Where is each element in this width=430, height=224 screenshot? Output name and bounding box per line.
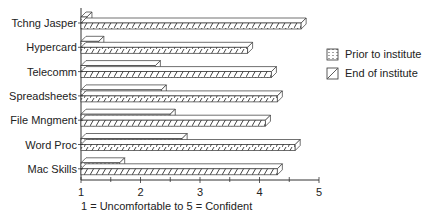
category-label: Tchng Jasper — [12, 17, 78, 29]
x-axis-label: 1 = Uncomfortable to 5 = Confident — [81, 200, 252, 212]
category-label: Spreadsheets — [9, 90, 77, 102]
legend: Prior to institute End of institute — [327, 48, 421, 79]
bar-chart: 12345 Tchng JasperHypercardTelecommSprea… — [0, 0, 430, 224]
bar-group — [81, 36, 253, 53]
legend-item-prior: Prior to institute — [327, 48, 421, 60]
legend-item-end: End of institute — [327, 67, 418, 79]
end-bar — [81, 42, 253, 53]
category-label: Word Proc — [25, 139, 77, 151]
category-label: Mac Skills — [27, 163, 77, 175]
end-bar — [81, 115, 270, 126]
x-tick-label: 1 — [78, 186, 84, 198]
bar-group — [81, 109, 270, 126]
end-bar — [81, 91, 282, 102]
category-label: Hypercard — [26, 41, 77, 53]
category-label: Telecomm — [27, 66, 77, 78]
end-bar — [81, 67, 276, 78]
dotted-swatch-icon — [327, 49, 338, 60]
x-tick-label: 3 — [197, 186, 203, 198]
legend-label: Prior to institute — [345, 48, 421, 60]
end-bar — [81, 164, 282, 175]
bar-group — [81, 85, 282, 102]
legend-label: End of institute — [345, 67, 418, 79]
bar-group — [81, 134, 300, 151]
bar-group — [81, 12, 306, 29]
category-label: File Mngment — [10, 114, 77, 126]
category-labels: Tchng JasperHypercardTelecommSpreadsheet… — [9, 17, 83, 175]
x-tick-label: 2 — [137, 186, 143, 198]
x-tick-label: 4 — [256, 186, 262, 198]
bar-group — [81, 61, 276, 78]
end-bar — [81, 140, 300, 151]
end-bar — [81, 18, 306, 29]
bars — [81, 12, 306, 175]
x-tick-label: 5 — [316, 186, 322, 198]
bar-group — [81, 158, 282, 175]
